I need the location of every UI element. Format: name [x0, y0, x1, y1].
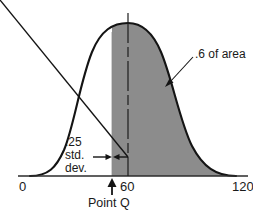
std-dev-line-2: std. — [65, 149, 87, 162]
axis-tick-label-0: 0 — [19, 180, 26, 194]
std-dev-annotation: .25 std. dev. — [65, 136, 87, 175]
std-dev-right-arrow — [0, 0, 128, 160]
point-q-up-arrow — [108, 178, 117, 195]
std-dev-left-arrow — [93, 154, 112, 160]
axis-tick-label-120: 120 — [232, 180, 253, 194]
std-dev-line-1: .25 — [65, 136, 87, 149]
std-dev-line-3: dev. — [65, 162, 87, 175]
point-q-label: Point Q — [88, 197, 130, 211]
axis-tick-label-60: 60 — [120, 180, 134, 194]
area-callout-leader — [165, 57, 193, 87]
area-callout-label: .6 of area — [195, 48, 246, 61]
